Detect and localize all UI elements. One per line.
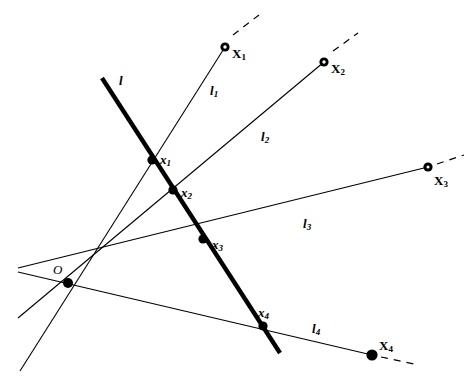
point-X4-marker bbox=[366, 349, 377, 360]
label-point-X2-text: X bbox=[331, 61, 340, 76]
label-point-X4-text: X bbox=[379, 338, 388, 353]
label-line-l2: l2 bbox=[261, 130, 269, 145]
label-point-X3-sub: 3 bbox=[443, 179, 448, 189]
point-x1-marker bbox=[147, 155, 156, 164]
label-point-x3: x3 bbox=[212, 238, 223, 253]
label-line-l3: l3 bbox=[303, 217, 311, 232]
label-line-l3-sub: 3 bbox=[307, 222, 312, 232]
label-line-l1: l1 bbox=[210, 84, 218, 99]
point-X1-marker bbox=[220, 42, 229, 51]
point-x3-marker bbox=[198, 234, 207, 243]
label-point-X3: X3 bbox=[434, 174, 448, 189]
dashed-extension-x2 bbox=[333, 33, 358, 51]
label-point-X3-text: X bbox=[434, 173, 443, 188]
label-point-X1: X1 bbox=[232, 47, 246, 62]
label-point-X2-sub: 2 bbox=[340, 67, 345, 77]
label-point-x1-sub: 1 bbox=[167, 158, 172, 168]
label-line-l: l bbox=[119, 74, 123, 87]
label-point-x2: x2 bbox=[181, 186, 192, 201]
dashed-extension-x4 bbox=[381, 357, 414, 364]
dashed-extension-x1 bbox=[233, 15, 259, 35]
dashed-extension-x3 bbox=[437, 155, 464, 164]
point-X3-marker bbox=[423, 162, 432, 171]
label-line-l1-sub: 1 bbox=[214, 89, 219, 99]
label-point-x2-sub: 2 bbox=[188, 191, 193, 201]
diagram-canvas: l l1 l2 l3 l4 O x1 x2 x3 x4 X1 X2 X3 X4 bbox=[0, 0, 473, 376]
point-origin-marker bbox=[63, 278, 73, 288]
label-origin-O: O bbox=[53, 263, 62, 276]
label-point-x4: x4 bbox=[258, 306, 269, 321]
label-point-X4-sub: 4 bbox=[388, 344, 393, 354]
label-point-x4-sub: 4 bbox=[265, 311, 270, 321]
ray-group bbox=[18, 47, 428, 371]
point-x2-marker bbox=[168, 185, 177, 194]
label-line-l2-sub: 2 bbox=[265, 135, 270, 145]
label-line-l4-sub: 4 bbox=[316, 327, 321, 337]
label-point-X1-sub: 1 bbox=[241, 52, 246, 62]
point-x4-marker bbox=[258, 321, 267, 330]
label-point-X4: X4 bbox=[379, 339, 393, 354]
label-line-l4: l4 bbox=[312, 322, 320, 337]
ray-l3 bbox=[18, 167, 428, 268]
ray-l1 bbox=[20, 47, 225, 371]
image-line-l bbox=[102, 78, 280, 353]
point-X2-marker bbox=[319, 57, 328, 66]
label-point-X1-text: X bbox=[232, 46, 241, 61]
label-point-x3-sub: 3 bbox=[219, 243, 224, 253]
label-point-x1: x1 bbox=[160, 153, 171, 168]
label-point-X2: X2 bbox=[331, 62, 345, 77]
